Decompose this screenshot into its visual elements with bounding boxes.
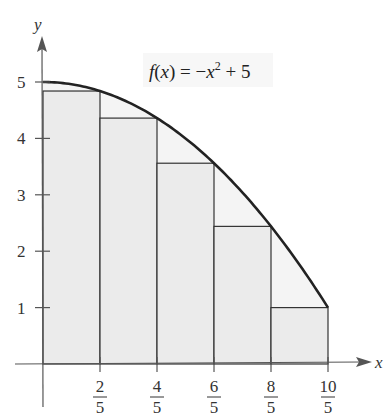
equation-label: f(x) = −x2 + 5 [149,59,250,83]
y-axis-label: y [32,15,42,34]
y-tick-label: 5 [17,73,26,92]
chart-canvas: x y 12345 25456585105 f(x) = −x2 + 5 [0,0,387,420]
x-tick-numerator: 2 [96,377,105,396]
x-tick-numerator: 6 [210,377,219,396]
y-tick-label: 3 [17,186,26,205]
x-tick-denominator: 5 [267,398,276,417]
riemann-rectangle [214,226,271,364]
x-ticks: 25456585105 [93,357,337,417]
x-axis-label: x [374,353,383,372]
riemann-rectangle [271,308,328,364]
y-tick-label: 1 [17,299,26,318]
x-tick-denominator: 5 [210,398,219,417]
x-tick-numerator: 8 [267,377,276,396]
y-tick-label: 2 [17,242,26,261]
x-tick-denominator: 5 [96,398,105,417]
riemann-rectangle [157,163,214,364]
riemann-rectangles [43,91,328,364]
y-tick-label: 4 [17,129,26,148]
riemann-rectangle [43,91,100,364]
riemann-rectangle [100,118,157,364]
x-tick-denominator: 5 [324,398,333,417]
x-tick-denominator: 5 [153,398,162,417]
x-tick-numerator: 10 [320,377,337,396]
x-tick-numerator: 4 [153,377,162,396]
